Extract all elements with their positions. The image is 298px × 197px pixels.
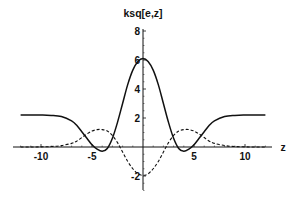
y-tick-label: 8	[134, 26, 140, 37]
y-tick-label: 2	[134, 113, 140, 124]
x-tick-label: 10	[239, 151, 251, 162]
y-ticks: -22468	[131, 26, 146, 191]
axes: -10-5510 -22468 z	[13, 26, 286, 191]
x-tick-label: -5	[88, 151, 97, 162]
x-tick-label: -10	[34, 151, 49, 162]
y-tick-label: 4	[134, 84, 140, 95]
chart-title: ksq[e,z]	[123, 7, 162, 19]
x-axis-label: z	[280, 141, 285, 153]
chart-plot: ksq[e,z] -10-5510 -22468 z	[0, 0, 298, 197]
x-tick-label: 5	[191, 151, 197, 162]
